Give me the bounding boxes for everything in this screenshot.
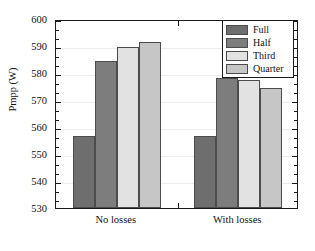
y-axis-tick-label: 570 [31, 96, 47, 107]
y-axis-minor-tick [56, 201, 59, 202]
bar-chart: 530540550560570580590600 Pmpp (W) No los… [0, 0, 315, 251]
y-axis-minor-tick [294, 147, 297, 148]
y-axis-minor-tick [56, 39, 59, 40]
y-axis-tick [56, 156, 61, 157]
y-axis-minor-tick [294, 30, 297, 31]
legend: FullHalfThirdQuarter [222, 20, 294, 78]
y-axis-tick-label: 590 [31, 42, 47, 53]
y-axis-tick-label: 600 [31, 15, 47, 26]
legend-item: Quarter [226, 62, 290, 75]
legend-item: Third [226, 49, 290, 62]
y-axis-minor-tick [56, 84, 59, 85]
y-axis-minor-tick [294, 39, 297, 40]
x-axis-category-label: No losses [95, 214, 136, 225]
bar [95, 61, 117, 208]
bar [194, 136, 216, 208]
y-axis-tick [56, 75, 61, 76]
legend-label: Full [253, 25, 269, 35]
bar [238, 80, 260, 208]
y-axis-minor-tick [56, 147, 59, 148]
y-axis-minor-tick [56, 174, 59, 175]
y-axis-tick [292, 156, 297, 157]
x-axis-tick [178, 203, 179, 208]
bar [260, 88, 282, 208]
legend-item: Half [226, 36, 290, 49]
y-axis-minor-tick [294, 165, 297, 166]
legend-label: Third [253, 51, 275, 61]
legend-swatch [226, 64, 248, 74]
y-axis-minor-tick [56, 66, 59, 67]
y-axis-minor-tick [294, 120, 297, 121]
bar [139, 42, 161, 208]
y-axis-tick-label: 550 [31, 150, 47, 161]
x-axis-category-label: With losses [213, 214, 261, 225]
y-axis-tick [56, 48, 61, 49]
y-axis-minor-tick [56, 30, 59, 31]
y-axis-minor-tick [56, 138, 59, 139]
legend-swatch [226, 38, 248, 48]
legend-item: Full [226, 23, 290, 36]
y-axis-tick [56, 102, 61, 103]
y-axis-minor-tick [294, 84, 297, 85]
y-axis-tick [56, 21, 61, 22]
y-axis-minor-tick [56, 192, 59, 193]
legend-swatch [226, 25, 248, 35]
y-axis-minor-tick [294, 192, 297, 193]
y-axis-title: Pmpp (W) [7, 50, 18, 130]
legend-label: Half [253, 38, 271, 48]
y-axis-minor-tick [56, 165, 59, 166]
y-axis-tick [292, 102, 297, 103]
y-axis-tick [292, 183, 297, 184]
bar [216, 78, 238, 208]
bar [73, 136, 95, 208]
y-axis-minor-tick [56, 57, 59, 58]
y-axis-tick-label: 530 [31, 204, 47, 215]
y-axis-minor-tick [294, 93, 297, 94]
legend-label: Quarter [253, 64, 284, 74]
y-axis-tick-label: 560 [31, 123, 47, 134]
y-axis-minor-tick [294, 174, 297, 175]
y-axis-tick [292, 129, 297, 130]
y-axis-minor-tick [294, 66, 297, 67]
y-axis-tick-label: 580 [31, 69, 47, 80]
legend-swatch [226, 51, 248, 61]
y-axis-tick-label: 540 [31, 177, 47, 188]
y-axis-minor-tick [294, 201, 297, 202]
bar [117, 47, 139, 208]
y-axis-minor-tick [294, 111, 297, 112]
y-axis-minor-tick [294, 138, 297, 139]
y-axis-tick [56, 129, 61, 130]
y-axis-minor-tick [56, 120, 59, 121]
y-axis-minor-tick [56, 111, 59, 112]
y-axis-minor-tick [56, 93, 59, 94]
y-axis-minor-tick [294, 57, 297, 58]
y-axis-tick [56, 183, 61, 184]
x-axis-tick [178, 21, 179, 26]
